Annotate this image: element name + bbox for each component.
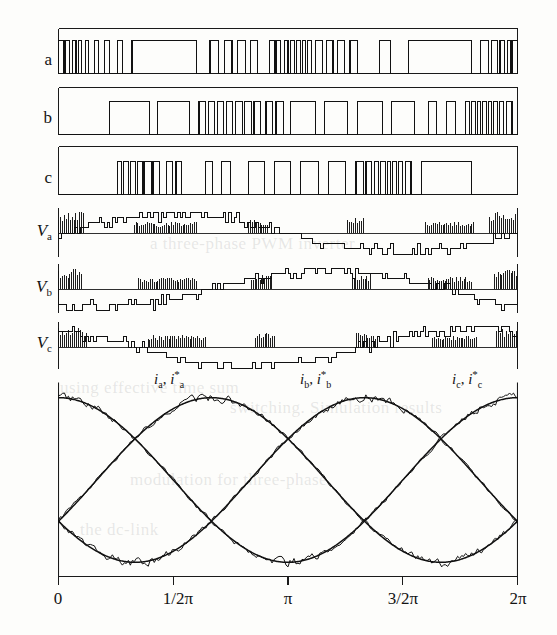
current-label-sub-ref: c [478, 379, 482, 390]
panel-voltage-vc [58, 315, 518, 369]
panel-switching-c [58, 144, 518, 201]
current-label-c: ic, i*c [452, 368, 482, 390]
figure-root: a three-phase PWM inverterusing effectiv… [0, 0, 557, 635]
panel-voltage-va [58, 203, 518, 257]
y-label-b: b [8, 108, 52, 128]
current-label-sub-ref: b [326, 379, 331, 390]
current-label-b: ib, i*b [300, 368, 331, 390]
current-label-sep: , [309, 371, 317, 387]
y-label-a: a [8, 50, 52, 70]
y-label-vb: Vb [8, 277, 52, 298]
x-tick-pi: π [268, 589, 308, 609]
current-label-sep: , [461, 371, 469, 387]
panel-currents [58, 382, 518, 578]
current-label-sep: , [163, 371, 171, 387]
x-tick-0: 0 [38, 589, 78, 609]
panel-voltage-vb [58, 259, 518, 313]
panel-switching-a [58, 26, 518, 83]
y-label-vc: Vc [8, 333, 52, 354]
x-tick-half-pi: 1/2π [153, 589, 203, 609]
y-label-va: Va [8, 221, 52, 242]
x-tick-three-half-pi: 3/2π [378, 589, 428, 609]
x-axis [58, 576, 518, 588]
current-label-a: ia, i*a [154, 368, 184, 390]
x-tick-two-pi: 2π [498, 589, 538, 609]
panel-switching-b [58, 85, 518, 142]
y-label-c: c [8, 168, 52, 188]
current-label-sub-ref: a [180, 379, 184, 390]
